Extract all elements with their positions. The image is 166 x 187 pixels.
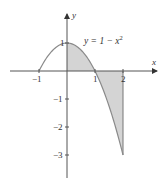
x-tick-label: 2: [121, 74, 126, 84]
equation-text: y = 1 − x: [83, 36, 120, 46]
shaded-area: [67, 43, 123, 155]
x-axis-label: x: [151, 57, 156, 67]
y-tick-label: −2: [53, 122, 63, 132]
x-tick-label: −1: [32, 74, 42, 84]
equation-exponent: 2: [120, 34, 123, 41]
y-tick-label: −3: [53, 150, 63, 160]
equation-label: y = 1 − x2: [83, 34, 123, 46]
chart-canvas: −112 1−1−2−3 x y y = 1 − x2: [0, 0, 166, 187]
x-tick-label: 1: [93, 74, 98, 84]
y-tick-label: 1: [60, 38, 65, 48]
y-axis-label: y: [71, 10, 76, 20]
y-tick-label: −1: [53, 94, 63, 104]
